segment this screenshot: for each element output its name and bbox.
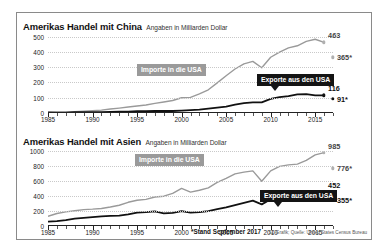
- series-end-value-label: 463: [328, 31, 340, 40]
- gridline: [48, 151, 333, 152]
- x-axis-tick-label: 2005: [219, 116, 233, 123]
- x-axis-tick-label: 2000: [174, 116, 188, 123]
- x-axis-minor-tick: [119, 113, 120, 116]
- y-axis-tick-label: 100: [33, 94, 44, 101]
- x-axis-minor-tick: [75, 226, 76, 229]
- x-axis-minor-tick: [208, 113, 209, 116]
- series-partial-year-label: 365*: [337, 53, 352, 62]
- chart-asien-imports-label: Importe in die USA: [135, 154, 204, 166]
- chart-china-exports-label-text: Exporte aus den USA: [261, 76, 330, 83]
- x-axis-minor-tick: [280, 113, 281, 116]
- chart-china-exports-label: Exporte aus den USA: [257, 74, 334, 86]
- x-axis-tick-label: 1985: [41, 229, 55, 236]
- x-axis-minor-tick: [101, 113, 102, 116]
- x-axis-minor-tick: [75, 113, 76, 116]
- gridline: [48, 181, 333, 182]
- x-axis-tick-label: 2000: [174, 229, 188, 236]
- x-axis-minor-tick: [119, 226, 120, 229]
- x-axis-minor-tick: [253, 113, 254, 116]
- chart-china-imports-label: Importe in die USA: [137, 64, 206, 76]
- footnote-text: *Stand September 2017: [191, 228, 261, 235]
- series-partial-year-dot: [331, 166, 334, 169]
- series-end-value-label: 985: [328, 141, 340, 150]
- x-axis-minor-tick: [155, 113, 156, 116]
- x-axis-minor-tick: [57, 113, 58, 116]
- x-axis-minor-tick: [324, 113, 325, 116]
- x-axis-minor-tick: [57, 226, 58, 229]
- y-axis-tick-label: 200: [33, 208, 44, 215]
- x-axis-minor-tick: [66, 113, 67, 116]
- x-axis-tick-label: 1990: [85, 229, 99, 236]
- x-axis-minor-tick: [146, 226, 147, 229]
- x-axis-minor-tick: [110, 113, 111, 116]
- y-axis-tick-label: 600: [33, 178, 44, 185]
- x-axis-tick-label: 1995: [130, 229, 144, 236]
- x-axis-minor-tick: [288, 113, 289, 116]
- chart-asien: Amerikas Handel mit Asien Angaben in Mil…: [17, 128, 371, 240]
- gridline: [48, 37, 333, 38]
- y-axis-tick-label: 300: [33, 64, 44, 71]
- series-end-value-label: 116: [328, 84, 340, 93]
- y-axis-tick-label: 800: [33, 163, 44, 170]
- y-axis-tick-label: 400: [33, 193, 44, 200]
- series-partial-year-dot: [331, 97, 334, 100]
- series-partial-year-label: 355*: [337, 195, 352, 204]
- x-axis-minor-tick: [244, 113, 245, 116]
- series-partial-year-dot: [331, 56, 334, 59]
- x-axis-tick-label: 1995: [130, 116, 144, 123]
- source-text: SZ-Grafik; Quelle: United States Census …: [268, 230, 367, 235]
- gridline: [48, 52, 333, 53]
- chart-china-imports-label-text: Importe in die USA: [141, 66, 202, 73]
- gridline: [48, 211, 333, 212]
- infographic-panel: Amerikas Handel mit China Angaben in Mil…: [16, 12, 372, 240]
- x-axis-tick-label: 2015: [308, 116, 322, 123]
- x-axis-minor-tick: [110, 226, 111, 229]
- x-axis-minor-tick: [199, 113, 200, 116]
- x-axis-tick-label: 1990: [85, 116, 99, 123]
- x-axis-minor-tick: [235, 113, 236, 116]
- x-axis-minor-tick: [66, 226, 67, 229]
- chart-china-exports-label-pointer: [271, 86, 279, 91]
- chart-asien-exports-label-pointer: [274, 202, 282, 207]
- chart-china: Amerikas Handel mit China Angaben in Mil…: [17, 13, 371, 128]
- x-axis-tick-label: 2010: [264, 116, 278, 123]
- series-partial-year-label: 776*: [337, 164, 352, 173]
- x-axis-minor-tick: [164, 226, 165, 229]
- x-axis-minor-tick: [297, 113, 298, 116]
- x-axis-minor-tick: [333, 113, 334, 116]
- chart-footer: *Stand September 2017 SZ-Grafik; Quelle:…: [191, 220, 367, 238]
- gridline: [48, 98, 333, 99]
- x-axis-minor-tick: [146, 113, 147, 116]
- chart-asien-exports-label: Exporte aus den USA: [260, 190, 337, 202]
- x-axis-minor-tick: [101, 226, 102, 229]
- chart-asien-imports-label-text: Importe in die USA: [139, 156, 200, 163]
- x-axis-tick-label: 1985: [41, 116, 55, 123]
- y-axis-tick-label: 400: [33, 48, 44, 55]
- x-axis-minor-tick: [191, 113, 192, 116]
- y-axis-tick-label: 500: [33, 33, 44, 40]
- y-axis-tick-label: 1000: [30, 148, 44, 155]
- series-partial-year-label: 91*: [337, 95, 348, 104]
- x-axis-minor-tick: [155, 226, 156, 229]
- y-axis-tick-label: 200: [33, 79, 44, 86]
- gridline: [48, 166, 333, 167]
- x-axis-minor-tick: [164, 113, 165, 116]
- series-end-value-label: 452: [328, 181, 340, 190]
